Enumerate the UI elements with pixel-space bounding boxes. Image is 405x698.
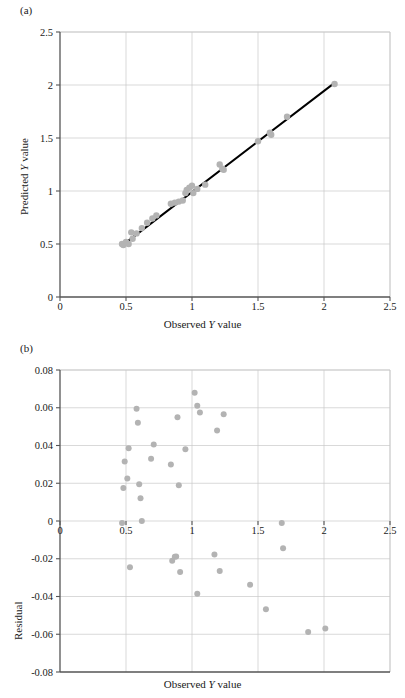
panel-b-svg: -0.08-0.06-0.04-0.0200.020.040.060.0800.…: [0, 340, 405, 680]
y-tick-label: 2: [48, 80, 53, 91]
y-tick-label: -0.08: [31, 667, 53, 678]
data-point: [192, 390, 198, 396]
x-tick-label: 2.5: [383, 301, 396, 310]
x-axis-ticks: 00.511.522.5: [57, 297, 396, 310]
y-label-pre: Predicted: [18, 171, 30, 215]
data-point: [129, 236, 135, 242]
y-tick-label: 0.02: [35, 478, 53, 489]
data-point: [197, 409, 203, 415]
x-label-pre: Observed: [164, 678, 209, 690]
x-label-post: value: [215, 678, 242, 690]
data-point: [305, 629, 311, 635]
data-point: [127, 564, 133, 570]
data-point: [279, 520, 285, 526]
data-point: [144, 220, 150, 226]
data-point: [125, 241, 131, 247]
y-tick-label: 0.06: [35, 402, 53, 413]
data-point: [221, 411, 227, 417]
data-points: [119, 390, 328, 635]
data-point: [133, 230, 139, 236]
data-point: [151, 442, 157, 448]
data-point: [168, 461, 174, 467]
y-tick-label: -0.02: [31, 553, 53, 564]
x-tick-label: 0: [57, 301, 62, 310]
data-point: [174, 414, 180, 420]
x-tick-label: 2: [321, 301, 326, 310]
data-point: [177, 569, 183, 575]
data-point: [263, 606, 269, 612]
y-tick-label: -0.04: [31, 591, 54, 602]
x-axis-ticks: 00.511.522.5: [57, 521, 396, 536]
x-tick-label: 1.5: [251, 301, 264, 310]
data-point: [217, 568, 223, 574]
data-point: [120, 485, 126, 491]
data-point: [214, 427, 220, 433]
data-point: [194, 403, 200, 409]
panel-a-plot-area: 00.511.522.500.511.522.5: [0, 0, 405, 310]
data-point: [194, 186, 200, 192]
data-point: [284, 114, 290, 120]
x-tick-label: 0.5: [119, 301, 132, 310]
y-tick-label: 2.5: [40, 27, 53, 38]
data-point: [247, 582, 253, 588]
x-tick-label: 1: [189, 525, 194, 536]
y-tick-label: 1.5: [40, 133, 53, 144]
panel-b-y-axis-label: Residual: [12, 602, 24, 641]
data-point: [126, 445, 132, 451]
y-tick-label: -0.06: [31, 629, 53, 640]
data-point: [194, 591, 200, 597]
data-point: [331, 81, 337, 87]
y-tick-label: 0.5: [40, 239, 53, 250]
grid-lines: [60, 32, 390, 297]
y-tick-label: 0: [48, 516, 53, 527]
figure-container: (a) 00.511.522.500.511.522.5 Predicted Y…: [0, 0, 405, 698]
data-point: [182, 446, 188, 452]
data-point: [280, 545, 286, 551]
y-tick-label: 1: [48, 186, 53, 197]
data-point: [122, 459, 128, 465]
panel-b-plot-area: -0.08-0.06-0.04-0.0200.020.040.060.0800.…: [0, 340, 405, 680]
y-tick-label: 0.08: [35, 365, 53, 376]
x-tick-label: 0: [57, 525, 62, 536]
data-point: [220, 167, 226, 173]
data-point: [268, 132, 274, 138]
y-label-post: value: [18, 138, 30, 165]
data-point: [134, 406, 140, 412]
data-point: [202, 181, 208, 187]
data-point: [148, 456, 154, 462]
data-point: [173, 553, 179, 559]
y-label-variable: Y: [18, 165, 30, 171]
data-point: [255, 138, 261, 144]
data-point: [128, 229, 134, 235]
y-tick-label: 0: [48, 292, 53, 303]
panel-a-y-axis-label: Predicted Y value: [18, 138, 30, 215]
data-point: [136, 481, 142, 487]
panel-b: (b) -0.08-0.06-0.04-0.0200.020.040.060.0…: [0, 340, 405, 698]
y-axis-ticks: 00.511.522.5: [40, 27, 60, 303]
panel-a: (a) 00.511.522.500.511.522.5 Predicted Y…: [0, 0, 405, 340]
x-tick-label: 2: [321, 525, 326, 536]
x-tick-label: 0.5: [119, 525, 132, 536]
x-tick-label: 2.5: [383, 525, 396, 536]
panel-a-x-axis-label: Observed Y value: [0, 318, 405, 330]
x-tick-label: 1: [189, 301, 194, 310]
data-point: [138, 495, 144, 501]
x-tick-label: 1.5: [251, 525, 264, 536]
data-point: [153, 212, 159, 218]
data-point: [211, 552, 217, 558]
data-point: [119, 520, 125, 526]
data-point: [139, 225, 145, 231]
data-point: [180, 197, 186, 203]
x-label-pre: Observed: [164, 318, 209, 330]
data-point: [176, 482, 182, 488]
data-point: [124, 476, 130, 482]
data-point: [139, 518, 145, 524]
data-point: [135, 420, 141, 426]
panel-b-x-axis-label: Observed Y value: [0, 678, 405, 690]
data-point: [322, 626, 328, 632]
y-axis-ticks: -0.08-0.06-0.04-0.0200.020.040.060.08: [31, 365, 60, 678]
y-tick-label: 0.04: [35, 440, 54, 451]
panel-a-svg: 00.511.522.500.511.522.5: [0, 0, 405, 310]
x-label-post: value: [215, 318, 242, 330]
